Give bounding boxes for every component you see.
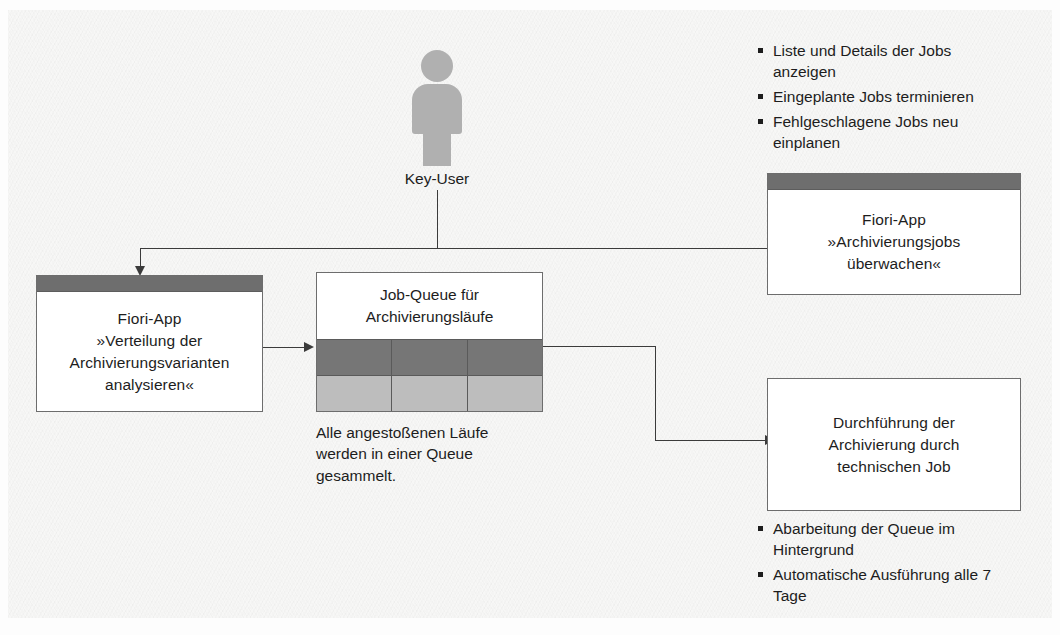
queue-caption-line: werden in einer Queue (316, 443, 556, 464)
key-user-label: Key-User (365, 170, 509, 188)
box-header-bar (768, 174, 1020, 190)
box-label-line: Archivierung durch (828, 434, 959, 456)
person-icon-head (421, 50, 453, 82)
queue-cell (468, 339, 542, 375)
box-label: Durchführung der Archivierung durch tech… (828, 412, 959, 478)
bullet-item: Eingeplante Jobs terminieren (757, 86, 1017, 107)
queue-caption-line: gesammelt. (316, 465, 556, 486)
connector-keyuser-stem (437, 190, 438, 249)
box-body: Fiori-App »Archivierungsjobs überwachen« (768, 190, 1020, 294)
box-label-line: Fiori-App (70, 308, 230, 330)
box-fiori-app-monitor-jobs[interactable]: Fiori-App »Archivierungsjobs überwachen« (767, 173, 1021, 295)
box-label-line: »Archivierungsjobs (828, 231, 961, 253)
connector-queue-out (543, 346, 655, 347)
queue-title: Job-Queue für Archivierungsläufe (317, 273, 542, 339)
box-body: Fiori-App »Verteilung der Archivierungsv… (37, 292, 262, 411)
queue-cell (468, 375, 542, 411)
box-label: Fiori-App »Archivierungsjobs überwachen« (828, 209, 961, 275)
bullet-item: Automatische Ausführung alle 7 Tage (757, 564, 1022, 606)
queue-row-dark (317, 339, 542, 375)
connector-to-technical-job (655, 440, 772, 441)
person-icon-body (412, 84, 462, 134)
connector-queue-drop (655, 346, 656, 440)
queue-title-line: Archivierungsläufe (366, 306, 494, 328)
box-label-line: Archivierungsvarianten (70, 352, 230, 374)
diagram-canvas: Key-User Liste und Details der Jobs anze… (0, 0, 1060, 635)
connector-left-box-to-queue (263, 347, 306, 348)
box-label-line: technischen Job (828, 456, 959, 478)
connector-keyuser-bus (140, 248, 780, 249)
box-technical-job-execution[interactable]: Durchführung der Archivierung durch tech… (767, 378, 1021, 511)
connector-keyuser-to-left-box (140, 248, 141, 268)
bullet-item: Abarbeitung der Queue im Hintergrund (757, 518, 1022, 560)
box-label-line: »Verteilung der (70, 330, 230, 352)
bullets-bottom: Abarbeitung der Queue im Hintergrund Aut… (757, 518, 1022, 610)
queue-cell (392, 375, 467, 411)
queue-title-line: Job-Queue für (366, 284, 494, 306)
queue-cell (317, 339, 392, 375)
job-queue-widget[interactable]: Job-Queue für Archivierungsläufe (316, 272, 543, 412)
bullet-item: Liste und Details der Jobs anzeigen (757, 40, 1017, 82)
key-user-actor: Key-User (395, 50, 479, 190)
box-label-line: Fiori-App (828, 209, 961, 231)
box-body: Durchführung der Archivierung durch tech… (768, 379, 1020, 510)
arrowhead-right-queue (304, 342, 314, 352)
queue-row-light (317, 375, 542, 411)
bullet-item: Fehlgeschlagene Jobs neu einplanen (757, 111, 1017, 153)
queue-cell (317, 375, 392, 411)
box-header-bar (37, 276, 262, 292)
queue-caption: Alle angestoßenen Läufe werden in einer … (316, 422, 556, 486)
box-label-line: überwachen« (828, 253, 961, 275)
bullets-top: Liste und Details der Jobs anzeigen Eing… (757, 40, 1017, 157)
box-label-line: analysieren« (70, 374, 230, 396)
box-fiori-app-analyze-variants[interactable]: Fiori-App »Verteilung der Archivierungsv… (36, 275, 263, 412)
person-icon-legs (423, 130, 451, 166)
queue-cell (392, 339, 467, 375)
queue-caption-line: Alle angestoßenen Läufe (316, 422, 556, 443)
box-label: Fiori-App »Verteilung der Archivierungsv… (70, 308, 230, 396)
box-label-line: Durchführung der (828, 412, 959, 434)
